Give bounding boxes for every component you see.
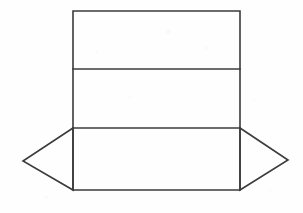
figure-canvas xyxy=(0,0,303,213)
dieline-drawing xyxy=(0,0,303,213)
drawing-background xyxy=(0,0,303,213)
